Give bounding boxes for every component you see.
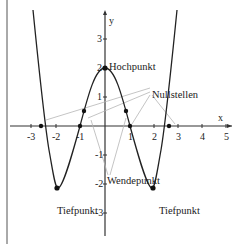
function-graph: -3 -2 -1 1 2 3 4 5 3 2 1 -1 -2 -3 x y Ho… [0,0,240,244]
x-tick-label: 4 [200,131,205,142]
tiefpunkt-right-dot [150,185,155,190]
y-tick-label: 2 [97,62,102,73]
nullstellen-label: Nullstellen [152,89,199,100]
y-axis-arrow-icon [103,10,107,15]
x-tick-label: 5 [224,131,229,142]
x-tick-label: 1 [128,131,133,142]
hochpunkt-dot [102,65,107,70]
tiefpunkt-left-dot [54,185,59,190]
x-tick-label: 3 [176,131,181,142]
x-axis-label: x [218,112,223,123]
nullstelle-dot [128,124,132,128]
x-axis-arrow-icon [227,124,232,128]
nullstelle-dot [167,124,171,128]
wendepunkt-dot [124,109,128,113]
x-tick-labels: -3 -2 -1 1 2 3 4 5 [27,131,229,142]
nullstelle-dot [78,124,82,128]
y-axis [103,10,107,236]
x-tick-label: -3 [27,131,35,142]
x-tick-label: -2 [52,131,60,142]
x-tick-label: -1 [76,131,84,142]
tiefpunkt-right-label: Tiefpunkt [159,205,200,216]
nullstelle-dot [39,124,43,128]
x-tick-label: 2 [152,131,157,142]
y-tick-label: -1 [95,149,103,160]
y-axis-label: y [109,15,114,26]
y-tick-label: 1 [97,91,102,102]
y-tick-label: 3 [97,33,102,44]
wendepunkt-label: Wendepunkt [107,175,160,186]
x-axis [10,124,232,128]
y-tick-label: -2 [95,178,103,189]
hochpunkt-label: Hochpunkt [109,61,156,72]
tiefpunkt-left-label: Tiefpunkt [57,205,98,216]
wendepunkt-dot [82,109,86,113]
